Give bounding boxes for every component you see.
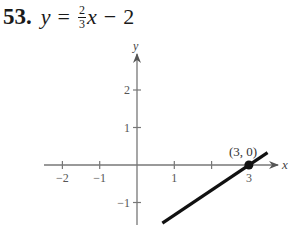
point-label: (3, 0) <box>229 144 257 159</box>
points: (3, 0) <box>229 144 257 170</box>
y-tick-label: 2 <box>124 83 130 97</box>
x-tick-label: 3 <box>246 171 252 185</box>
y-tick-label: −1 <box>117 196 130 210</box>
axes <box>44 54 278 225</box>
x-tick-label: 1 <box>171 171 177 185</box>
x-tick-label: −2 <box>56 171 69 185</box>
y-axis-label: y <box>132 39 139 53</box>
y-tick-label: 1 <box>124 121 130 135</box>
graph: −2−113 −112 x y (3, 0) <box>0 0 289 225</box>
point-marker <box>244 161 253 170</box>
x-axis-label: x <box>281 157 288 172</box>
x-tick-label: −1 <box>93 171 106 185</box>
